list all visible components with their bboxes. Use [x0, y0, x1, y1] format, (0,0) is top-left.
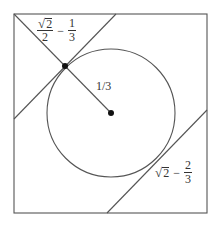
minus-sign: − [57, 24, 64, 38]
sqrt-2: √2 [37, 18, 53, 31]
fraction-sqrt2-over-2: √2 2 [37, 18, 53, 44]
tangent-point [62, 63, 68, 69]
geometry-diagram [0, 0, 217, 225]
label-bottom-right-distance: √2 − 2 3 [155, 159, 192, 186]
label-radius: 1/3 [96, 80, 111, 92]
fraction-one-third: 1 3 [68, 17, 76, 44]
minus-sign: − [173, 166, 180, 180]
sqrt-2: √2 [155, 167, 169, 179]
center-point [108, 110, 114, 116]
label-top-left-distance: √2 2 − 1 3 [37, 17, 76, 44]
fraction-two-thirds: 2 3 [184, 159, 192, 186]
